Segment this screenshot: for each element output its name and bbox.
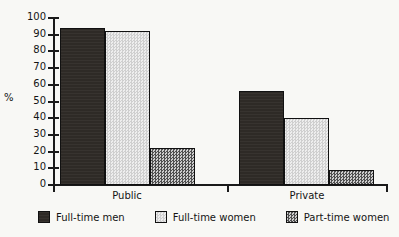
legend-item: Full-time women [155,211,256,223]
y-axis-tick-label-text: 90 [18,29,46,39]
y-axis-tick-label-text: 0 [18,179,46,189]
y-axis-tick-label: 0 [10,179,46,189]
x-axis-tick [53,184,55,192]
y-axis-tick-label: 20 [10,146,46,156]
bar [60,28,105,185]
y-axis-tick-label-text: 40 [18,112,46,122]
legend-swatch-icon [155,211,167,223]
legend-swatch-icon [38,211,50,223]
bar [150,148,195,185]
y-axis-tick-label-text: 10 [18,162,46,172]
legend-swatch-icon [286,211,298,223]
y-axis-tick-label: 50 [10,96,46,106]
y-axis-tick-label: 40 [10,112,46,122]
y-axis-tick-label-text: 80 [18,45,46,55]
legend-label: Full-time women [173,212,256,223]
bar [105,31,150,185]
y-axis-tick-label: 70 [10,62,46,72]
bar [329,170,374,185]
y-axis-tick-label: 30 [10,129,46,139]
y-axis-tick-label: 90 [10,29,46,39]
y-axis-tick-label-text: 70 [18,62,46,72]
chart-legend: Full-time menFull-time womenPart-time wo… [38,211,399,223]
bar [284,118,329,185]
x-axis-category-label: Private [267,190,347,201]
y-axis-tick-label-text: 30 [18,129,46,139]
y-axis-tick-label-text: 100 [18,12,46,22]
legend-label: Full-time men [56,212,125,223]
y-axis-tick-label: 100 [10,12,46,22]
bar-chart: % 1009080706050403020100 PublicPrivate F… [0,0,399,237]
x-axis-category-label: Public [87,190,167,201]
y-axis-tick-label-text: 20 [18,146,46,156]
bar [239,91,284,185]
y-axis-tick-label-text: 50 [18,96,46,106]
legend-label: Part-time women [304,212,390,223]
legend-item: Part-time women [286,211,390,223]
plot-area [54,18,388,185]
x-axis-tick [227,184,229,192]
y-axis-tick-label: 10 [10,162,46,172]
y-axis-tick-label: 80 [10,45,46,55]
y-axis-tick-label-text: 60 [18,79,46,89]
legend-item: Full-time men [38,211,125,223]
y-axis-tick-label: 60 [10,79,46,89]
x-axis-tick [386,184,388,192]
